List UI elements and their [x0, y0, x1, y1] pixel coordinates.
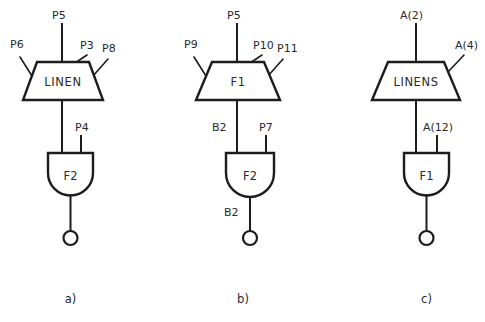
panel-b-output-label: B2 — [224, 206, 239, 219]
panel-a-pin-p6-leader — [20, 57, 32, 76]
panel-b-block-label: F1 — [230, 75, 245, 89]
panel-a-pin-p3: P3 — [80, 39, 94, 52]
diagram-canvas: P5 P3 P6 P8 LINEN P4 F2 — [0, 0, 485, 322]
logic-diagram-figure: P5 P3 P6 P8 LINEN P4 F2 — [0, 0, 485, 322]
panel-b-pin-p5: P5 — [227, 9, 241, 22]
panel-a-block-label: LINEN — [44, 75, 81, 89]
panel-c-output-bubble-icon — [420, 231, 434, 245]
panel-c-pin-a12: A(12) — [423, 121, 453, 134]
panel-b-wire-label-b2: B2 — [212, 121, 227, 134]
panel-c-pin-a2: A(2) — [400, 9, 423, 22]
panel-b-pin-p10: P10 — [253, 39, 274, 52]
panel-b-gate-label: F2 — [243, 169, 257, 183]
panel-a-pin-p8: P8 — [102, 42, 116, 55]
panel-a-pin-p4: P4 — [75, 121, 89, 134]
panel-b-pin-p7: P7 — [259, 121, 273, 134]
panel-a-caption: a) — [65, 292, 77, 306]
panel-b-pin-p9-leader — [194, 57, 206, 76]
panel-b-output-bubble-icon — [243, 231, 257, 245]
panel-a-pin-p8-leader — [93, 59, 108, 76]
panel-c: A(2) A(4) LINENS A(12) F1 c) — [372, 9, 478, 306]
panel-a-output-bubble-icon — [64, 231, 78, 245]
panel-c-caption: c) — [421, 292, 432, 306]
panel-b-pin-p9: P9 — [184, 38, 198, 51]
panel-a-pin-p6: P6 — [10, 38, 24, 51]
panel-b-caption: b) — [237, 292, 249, 306]
panel-a: P5 P3 P6 P8 LINEN P4 F2 — [10, 9, 116, 306]
panel-c-gate-label: F1 — [420, 169, 434, 183]
panel-b-pin-p11: P11 — [277, 42, 298, 55]
panel-c-pin-a4: A(4) — [455, 39, 478, 52]
panel-a-pin-p5: P5 — [52, 9, 66, 22]
panel-c-pin-a4-leader — [448, 55, 464, 72]
panel-c-block-label: LINENS — [393, 75, 438, 89]
panel-b: P5 P10 P9 P11 F1 B2 P7 F2 B2 — [184, 9, 298, 306]
panel-b-pin-p11-leader — [268, 59, 283, 76]
panel-a-gate-label: F2 — [64, 169, 78, 183]
